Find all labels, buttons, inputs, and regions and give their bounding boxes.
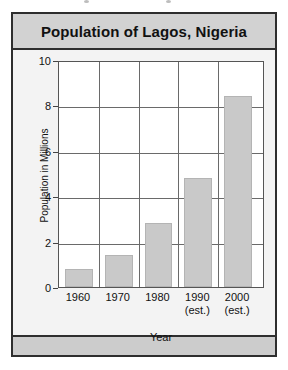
x-tick-year-1960: 1960: [66, 291, 90, 303]
x-tick-note-2000: (est.): [217, 304, 257, 317]
y-tick-label-0: 0: [15, 283, 51, 294]
bar-1980: [145, 223, 173, 287]
x-axis-title: Year: [58, 331, 264, 343]
x-tick-year-1970: 1970: [105, 291, 129, 303]
y-tick-label-2: 2: [15, 238, 51, 249]
x-tick-year-1990: 1990: [185, 291, 209, 303]
figure-card: Population of Lagos, Nigeria Population …: [11, 12, 277, 357]
bar-1970: [105, 255, 133, 287]
y-tick-label-8: 8: [15, 101, 51, 112]
x-axis-tick-labels: 1960197019801990(est.)2000(est.): [58, 291, 264, 325]
y-tick-label-4: 4: [15, 192, 51, 203]
bar-2000: [224, 96, 252, 287]
bar-1960: [65, 269, 93, 287]
chart-title: Population of Lagos, Nigeria: [41, 23, 247, 40]
x-tick-label-1980: 1980: [138, 291, 178, 304]
x-tick-label-1990: 1990(est.): [177, 291, 217, 317]
title-bar: Population of Lagos, Nigeria: [13, 14, 275, 50]
x-tick-label-1960: 1960: [58, 291, 98, 304]
y-tick-label-10: 10: [15, 56, 51, 67]
x-tick-year-2000: 2000: [225, 291, 249, 303]
x-tick-year-1980: 1980: [145, 291, 169, 303]
y-tick-label-6: 6: [15, 147, 51, 158]
y-tick-mark-0: [53, 288, 58, 289]
bar-1990: [184, 178, 212, 287]
x-tick-note-1990: (est.): [177, 304, 217, 317]
chart-panel: Population in Millions 0246810 196019701…: [13, 50, 275, 337]
top-artifact-right: [166, 0, 171, 3]
x-tick-label-1970: 1970: [98, 291, 138, 304]
top-artifact-left: [84, 0, 89, 3]
bar-series: [59, 62, 263, 287]
plot-area: [58, 61, 264, 288]
y-axis-tick-labels: 0246810: [13, 61, 51, 288]
x-tick-label-2000: 2000(est.): [217, 291, 257, 317]
